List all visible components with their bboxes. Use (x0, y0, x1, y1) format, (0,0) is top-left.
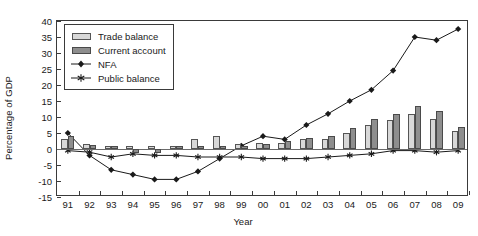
data-point-nfa-04 (347, 98, 353, 104)
legend-item-trade-balance: Trade balance (70, 29, 166, 43)
y-tick-mark (57, 37, 61, 38)
x-tick-label: 01 (279, 199, 290, 210)
bar-trade-balance-95 (148, 146, 155, 149)
legend-label-current-account: Current account (98, 45, 166, 56)
x-tick-mark (361, 191, 362, 195)
y-tick-mark (57, 21, 61, 22)
data-point-nfa-95 (151, 176, 157, 182)
bar-current-account-99 (241, 146, 248, 149)
legend-swatch-current-account (70, 43, 92, 57)
y-tick-label: -5 (44, 160, 57, 171)
x-tick-mark (317, 191, 318, 195)
x-tick-label: 02 (301, 199, 312, 210)
y-tick-label: 25 (41, 64, 57, 75)
y-tick-label: -15 (38, 192, 57, 203)
x-tick-label: 09 (453, 199, 464, 210)
x-tick-label: 97 (193, 199, 204, 210)
y-tick-mark (57, 53, 61, 54)
x-tick-mark (382, 191, 383, 195)
bar-trade-balance-04 (343, 133, 350, 149)
legend-label-nfa: NFA (98, 59, 116, 70)
x-tick-mark (339, 191, 340, 195)
x-tick-label: 94 (128, 199, 139, 210)
bar-current-account-07 (415, 106, 422, 149)
x-tick-mark (122, 191, 123, 195)
bar-current-account-00 (263, 144, 270, 149)
bar-trade-balance-94 (126, 146, 133, 149)
data-point-nfa-00 (260, 133, 266, 139)
bar-current-account-05 (371, 119, 378, 149)
bar-trade-balance-09 (452, 131, 459, 149)
legend-item-nfa: NFA (70, 57, 166, 71)
y-tick-mark (57, 101, 61, 102)
legend-marker-asterisk-icon (70, 71, 92, 85)
y-tick-mark (57, 133, 61, 134)
bar-current-account-01 (285, 141, 292, 149)
x-tick-label: 08 (431, 199, 442, 210)
bar-current-account-97 (198, 146, 205, 149)
data-point-nfa-93 (108, 167, 114, 173)
x-tick-mark (187, 191, 188, 195)
y-tick-mark (57, 197, 61, 198)
bar-current-account-94 (133, 149, 140, 153)
x-tick-mark (209, 191, 210, 195)
legend-item-public-balance: Public balance (70, 71, 166, 85)
x-tick-label: 95 (149, 199, 160, 210)
legend-label-public-balance: Public balance (98, 73, 160, 84)
y-tick-label: 15 (41, 96, 57, 107)
x-tick-label: 91 (63, 199, 74, 210)
data-point-nfa-09 (455, 26, 461, 32)
y-tick-mark (57, 165, 61, 166)
x-tick-label: 07 (409, 199, 420, 210)
bar-current-account-09 (458, 127, 465, 149)
x-tick-mark (296, 191, 297, 195)
y-tick-label: 10 (41, 112, 57, 123)
data-point-nfa-08 (433, 37, 439, 43)
x-tick-label: 93 (106, 199, 117, 210)
x-tick-mark (144, 191, 145, 195)
legend-swatch-trade-balance (70, 29, 92, 43)
x-tick-mark (79, 191, 80, 195)
y-tick-mark (57, 117, 61, 118)
x-tick-mark (230, 191, 231, 195)
x-tick-mark (447, 191, 448, 195)
y-tick-label: 0 (47, 144, 57, 155)
bar-current-account-06 (393, 114, 400, 149)
x-axis-label: Year (233, 216, 252, 227)
data-point-nfa-03 (325, 111, 331, 117)
x-tick-label: 00 (258, 199, 269, 210)
legend-item-current-account: Current account (70, 43, 166, 57)
legend-marker-diamond-icon (70, 57, 92, 71)
y-tick-label: -10 (38, 176, 57, 187)
bar-trade-balance-08 (430, 119, 437, 149)
x-tick-label: 96 (171, 199, 182, 210)
x-tick-label: 99 (236, 199, 247, 210)
data-point-nfa-97 (195, 168, 201, 174)
bar-current-account-91 (68, 136, 75, 149)
data-point-nfa-02 (303, 122, 309, 128)
x-tick-mark (165, 191, 166, 195)
x-tick-mark (469, 191, 470, 195)
bar-current-account-93 (111, 146, 118, 149)
bar-current-account-02 (306, 138, 313, 149)
x-tick-label: 05 (366, 199, 377, 210)
x-tick-label: 92 (84, 199, 95, 210)
x-tick-label: 06 (388, 199, 399, 210)
bar-current-account-96 (176, 146, 183, 149)
bar-current-account-04 (350, 128, 357, 149)
zero-baseline (57, 149, 467, 150)
x-tick-mark (100, 191, 101, 195)
legend-label-trade-balance: Trade balance (98, 31, 158, 42)
y-tick-label: 5 (47, 128, 57, 139)
bar-current-account-08 (436, 111, 443, 149)
data-point-nfa-07 (412, 34, 418, 40)
y-tick-label: 40 (41, 16, 57, 27)
bar-current-account-92 (90, 145, 97, 149)
bar-current-account-98 (220, 146, 227, 149)
y-axis-label: Percentage of GDP (3, 76, 14, 160)
x-tick-mark (274, 191, 275, 195)
y-tick-mark (57, 181, 61, 182)
chart-legend: Trade balance Current account NFA Public… (64, 24, 174, 90)
chart-figure: Percentage of GDP 4035302520151050-5-10-… (0, 0, 478, 236)
x-axis-label-container: Year (0, 216, 478, 227)
